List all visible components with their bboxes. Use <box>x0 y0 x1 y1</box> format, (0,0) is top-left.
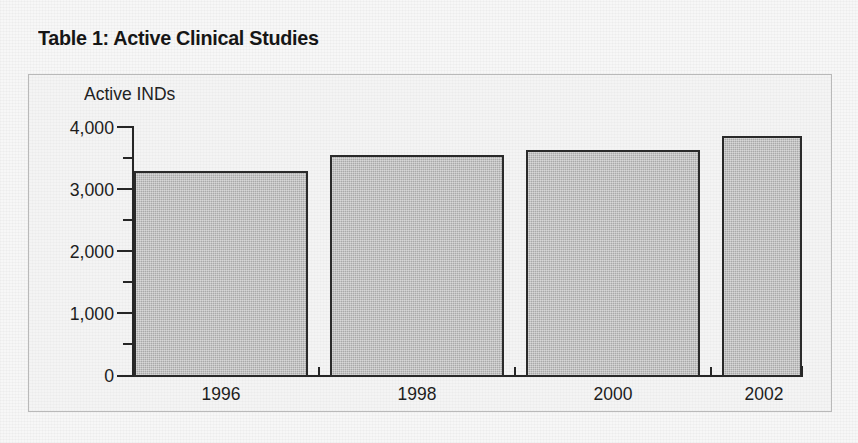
bar-2002[interactable] <box>722 136 802 377</box>
bar-1998[interactable] <box>330 155 504 377</box>
x-tick-label-1996: 1996 <box>157 383 286 405</box>
y-tick-label-1000: 1,000 <box>34 303 114 325</box>
bar-2000[interactable] <box>526 150 700 377</box>
x-tick-label-1998: 1998 <box>353 383 482 405</box>
x-tick-2001 <box>710 367 712 375</box>
x-tick-label-2000: 2000 <box>549 383 678 405</box>
x-tick-label-2002: 2002 <box>700 383 829 405</box>
y-axis-title: Active INDs <box>84 83 175 105</box>
page-title: Table 1: Active Clinical Studies <box>38 26 319 50</box>
y-tick-label-2000: 2,000 <box>34 241 114 263</box>
bar-1996[interactable] <box>134 171 308 377</box>
x-tick-1997 <box>318 367 320 375</box>
x-tick-1999 <box>514 367 516 375</box>
y-tick-label-0: 0 <box>34 365 114 387</box>
y-tick-label-4000: 4,000 <box>34 117 114 139</box>
y-tick-label-3000: 3,000 <box>34 179 114 201</box>
x-axis-end-tick <box>801 366 803 377</box>
